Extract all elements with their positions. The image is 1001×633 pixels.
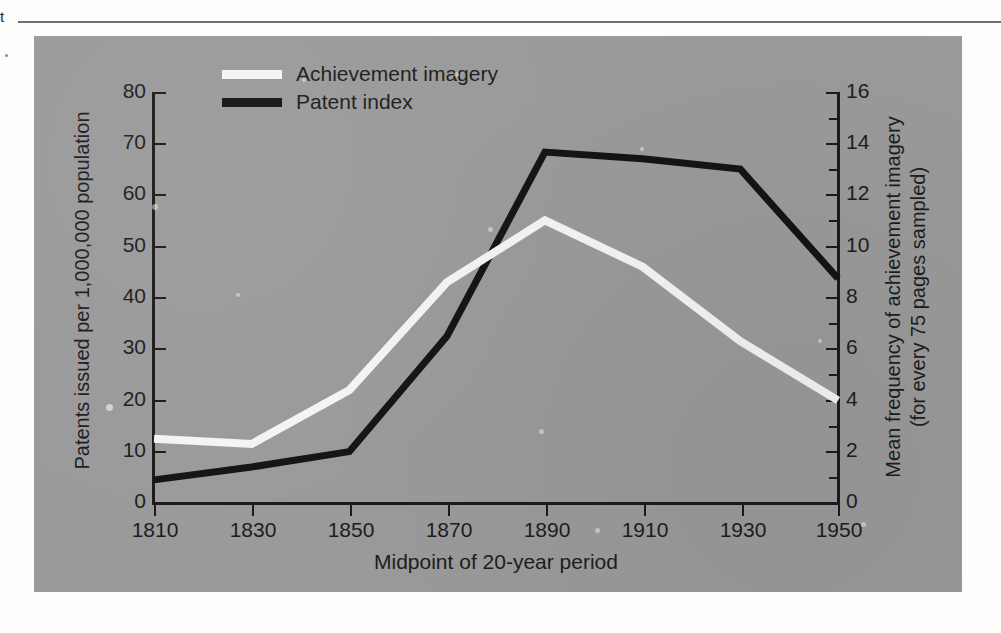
page-top-rule bbox=[18, 21, 1001, 23]
figure-panel: Achievement imagery Patent index 80 70 6… bbox=[34, 36, 962, 592]
document-page: t Achievement imagery Patent index 80 7 bbox=[0, 0, 1001, 633]
margin-speck bbox=[5, 54, 8, 57]
chart-series-layer bbox=[34, 36, 962, 592]
margin-text-fragment: t bbox=[0, 9, 16, 25]
patent-index-line bbox=[154, 152, 838, 480]
achievement-imagery-line bbox=[154, 220, 838, 444]
